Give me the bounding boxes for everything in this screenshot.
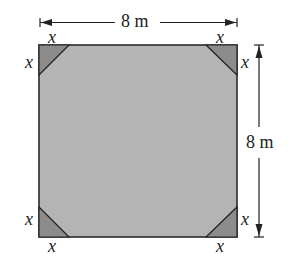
corner-label-bottom-right-bottom: x bbox=[216, 237, 224, 255]
corner-label-bottom-left-bottom: x bbox=[48, 237, 56, 255]
corner-label-top-right-side: x bbox=[241, 53, 249, 71]
width-label: 8 m bbox=[118, 12, 152, 30]
corner-label-bottom-left-side: x bbox=[25, 210, 33, 228]
height-label: 8 m bbox=[246, 133, 274, 151]
corner-label-bottom-right-side: x bbox=[241, 210, 249, 228]
square-sheet bbox=[39, 45, 237, 237]
corner-label-top-left-side: x bbox=[25, 53, 33, 71]
corner-label-top-left-top: x bbox=[48, 28, 56, 46]
corner-label-top-right-top: x bbox=[216, 28, 224, 46]
